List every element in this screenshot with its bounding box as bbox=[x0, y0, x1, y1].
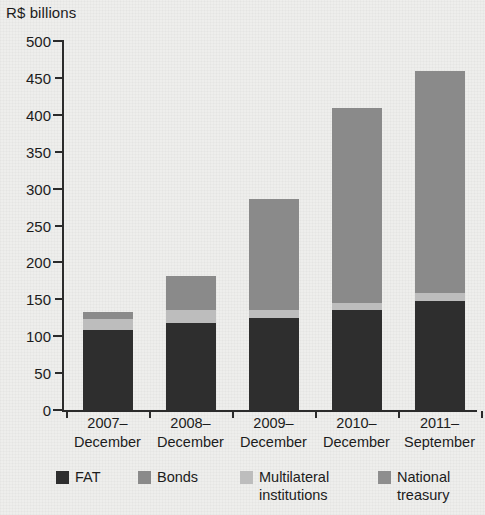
legend-swatch-icon bbox=[240, 471, 253, 484]
bar-segment bbox=[332, 108, 382, 303]
x-axis-label-line: 2007– bbox=[74, 414, 141, 433]
legend-item[interactable]: FAT bbox=[56, 468, 101, 486]
bar-column[interactable] bbox=[332, 108, 382, 410]
bar-segment bbox=[332, 310, 382, 410]
x-axis-label: 2007–December bbox=[74, 414, 141, 452]
legend-label: FAT bbox=[75, 468, 101, 486]
bar-column[interactable] bbox=[249, 199, 299, 410]
x-axis-label: 2009–December bbox=[240, 414, 307, 452]
x-axis-label-line: September bbox=[404, 433, 475, 452]
x-axis-line bbox=[62, 410, 477, 412]
bar-segment bbox=[166, 323, 216, 410]
bar-segment bbox=[415, 301, 465, 410]
x-axis-tick bbox=[481, 411, 483, 418]
bar-column[interactable] bbox=[83, 312, 133, 410]
bar-column[interactable] bbox=[166, 276, 216, 410]
bar-segment bbox=[332, 303, 382, 310]
y-axis-tick-label: 250 bbox=[26, 217, 51, 234]
y-axis-tick-label: 500 bbox=[26, 33, 51, 50]
y-axis-tick-label: 0 bbox=[43, 402, 51, 419]
bar-segment bbox=[249, 310, 299, 317]
bar-segment bbox=[83, 319, 133, 331]
plot-area: 050100150200250300350400450500 bbox=[62, 41, 477, 410]
x-axis-label: 2010–December bbox=[323, 414, 390, 452]
y-axis-tick-label: 100 bbox=[26, 328, 51, 345]
legend-swatch-icon bbox=[138, 471, 151, 484]
bar-segment bbox=[415, 293, 465, 301]
y-axis-tick-label: 150 bbox=[26, 291, 51, 308]
bar-segment bbox=[415, 71, 465, 293]
legend-item[interactable]: National treasury bbox=[378, 468, 450, 504]
bar-segment bbox=[166, 276, 216, 311]
legend-swatch-icon bbox=[378, 471, 391, 484]
stacked-bar-chart: R$ billions 0501001502002503003504004505… bbox=[0, 0, 485, 515]
legend-label: Bonds bbox=[157, 468, 198, 486]
x-axis-label: 2011–September bbox=[404, 414, 475, 452]
bar-segment bbox=[83, 312, 133, 319]
y-axis-tick-label: 450 bbox=[26, 69, 51, 86]
bar-series-group bbox=[62, 41, 477, 410]
x-axis-labels: 2007–December2008–December2009–December2… bbox=[62, 414, 477, 462]
y-axis-tick-label: 350 bbox=[26, 143, 51, 160]
legend-item[interactable]: Multilateral institutions bbox=[240, 468, 329, 504]
y-axis-tick-label: 200 bbox=[26, 254, 51, 271]
bar-segment bbox=[249, 199, 299, 310]
x-axis-label-line: December bbox=[74, 433, 141, 452]
legend-label: National treasury bbox=[397, 468, 450, 504]
x-axis-label-line: 2009– bbox=[240, 414, 307, 433]
x-axis-label: 2008–December bbox=[157, 414, 224, 452]
x-axis-label-line: December bbox=[240, 433, 307, 452]
y-axis-tick-label: 300 bbox=[26, 180, 51, 197]
chart-legend: FATBondsMultilateral institutionsNationa… bbox=[34, 468, 479, 514]
bar-segment bbox=[166, 310, 216, 323]
bar-segment bbox=[249, 318, 299, 410]
y-axis-tick-label: 400 bbox=[26, 106, 51, 123]
x-axis-label-line: December bbox=[157, 433, 224, 452]
legend-swatch-icon bbox=[56, 471, 69, 484]
legend-label: Multilateral institutions bbox=[259, 468, 329, 504]
y-axis-tick-label: 50 bbox=[34, 365, 51, 382]
x-axis-label-line: 2008– bbox=[157, 414, 224, 433]
bar-segment bbox=[83, 330, 133, 410]
bar-column[interactable] bbox=[415, 71, 465, 410]
x-axis-label-line: 2010– bbox=[323, 414, 390, 433]
x-axis-label-line: December bbox=[323, 433, 390, 452]
y-axis-title: R$ billions bbox=[6, 4, 76, 21]
x-axis-label-line: 2011– bbox=[404, 414, 475, 433]
legend-item[interactable]: Bonds bbox=[138, 468, 198, 486]
